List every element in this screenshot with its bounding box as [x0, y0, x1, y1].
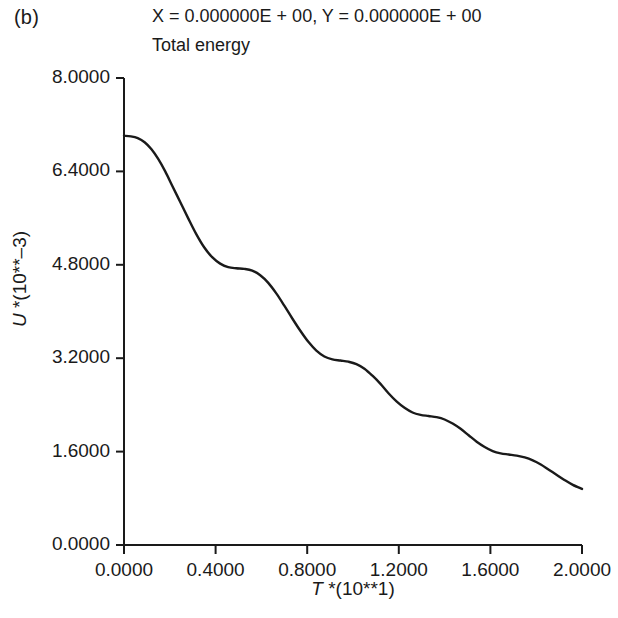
y-axis-ticks	[116, 78, 124, 545]
x-axis-title: T *(10**1)	[124, 578, 582, 600]
y-axis-title: U *(10**–3)	[9, 199, 31, 359]
plot-area: 8.00006.40004.80003.20001.60000.0000 0.0…	[0, 0, 618, 618]
y-axis-title-units: *(10**–3)	[9, 231, 30, 313]
y-tick-label: 8.0000	[6, 66, 110, 88]
y-tick-label: 6.4000	[6, 159, 110, 181]
x-axis-title-units: *(10**1)	[323, 578, 395, 599]
y-tick-label: 1.6000	[6, 440, 110, 462]
plot-canvas	[0, 0, 618, 618]
y-tick-label: 0.0000	[6, 533, 110, 555]
data-series-total-energy	[124, 136, 582, 489]
y-axis-title-variable: U	[9, 313, 30, 327]
x-axis-title-variable: T	[311, 578, 323, 599]
